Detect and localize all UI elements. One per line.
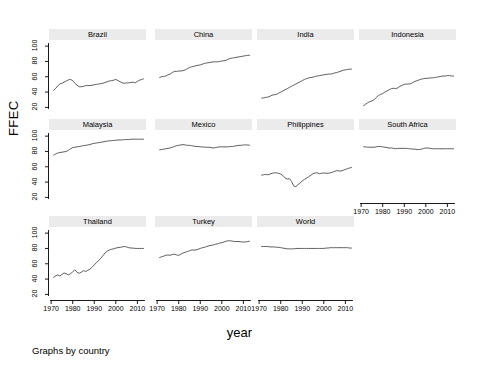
series-line-indonesia [359,40,456,112]
series-line-mexico [155,130,252,202]
series-line-turkey [155,227,252,299]
panel-title: India [257,29,354,40]
panel-plot-area [49,130,146,202]
x-axis-col-1: 19701980199020002010 [49,300,146,318]
y-axis-row-3: 10080604020 [25,227,49,299]
panel-china: China [155,29,252,112]
panel-title: Mexico [155,119,252,130]
panel-south-africa: South Africa [359,119,456,202]
series-line-india [257,40,354,112]
x-axis-col-3: 19701980199020002010 [257,300,354,318]
panel-world: World [257,216,354,299]
series-line-world [257,227,354,299]
panel-thailand: Thailand [49,216,146,299]
panel-plot-area [257,227,354,299]
panel-plot-area [49,40,146,112]
series-line-brazil [49,40,146,112]
y-axis-title: FFEC [6,100,21,136]
panel-turkey: Turkey [155,216,252,299]
panel-india: India [257,29,354,112]
series-line-thailand [49,227,146,299]
series-line-philippines [257,130,354,202]
panel-plot-area [359,40,456,112]
panel-philippines: Philippines [257,119,354,202]
panel-plot-area [257,130,354,202]
series-line-china [155,40,252,112]
x-axis-col-2: 19701980199020002010 [155,300,252,318]
panel-indonesia: Indonesia [359,29,456,112]
series-line-south-africa [359,130,456,202]
y-tick-label: 20 [31,97,38,117]
panel-plot-area [155,40,252,112]
chart-figure: FFEC year Graphs by country BrazilChinaI… [0,0,479,375]
panel-title: World [257,216,354,227]
panel-title: Malaysia [49,119,146,130]
panel-title: Thailand [49,216,146,227]
y-tick-label: 20 [31,284,38,304]
panel-title: Brazil [49,29,146,40]
panel-plot-area [257,40,354,112]
y-axis-row-1: 10080604020 [25,40,49,112]
panel-plot-area [155,130,252,202]
x-tick-label: 2010 [434,208,460,215]
panel-plot-area [49,227,146,299]
panel-mexico: Mexico [155,119,252,202]
x-tick-label: 2010 [332,305,358,312]
panel-title: China [155,29,252,40]
y-tick-label: 20 [31,187,38,207]
panel-brazil: Brazil [49,29,146,112]
panel-plot-area [359,130,456,202]
panel-plot-area [155,227,252,299]
x-axis-title: year [0,325,479,340]
y-axis-row-2: 10080604020 [25,130,49,202]
panel-title: Indonesia [359,29,456,40]
panel-malaysia: Malaysia [49,119,146,202]
series-line-malaysia [49,130,146,202]
panel-title: Philippines [257,119,354,130]
panel-title: South Africa [359,119,456,130]
figure-note: Graphs by country [32,345,110,356]
x-axis-south-africa: 19701980199020002010 [359,203,456,221]
panel-title: Turkey [155,216,252,227]
